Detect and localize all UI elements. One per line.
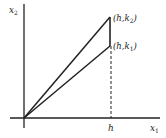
point-k1-label: (h,k1) [113, 41, 137, 52]
diagram-canvas: x2 x1 h (h,k2) (h,k1) [0, 0, 166, 138]
ray-to-k1 [24, 46, 110, 118]
h-tick-label: h [108, 123, 114, 133]
point-k2-label: (h,k2) [113, 13, 137, 24]
x-axis-label: x1 [150, 123, 159, 134]
y-axis-label: x2 [9, 5, 18, 16]
ray-to-k2 [24, 17, 110, 118]
